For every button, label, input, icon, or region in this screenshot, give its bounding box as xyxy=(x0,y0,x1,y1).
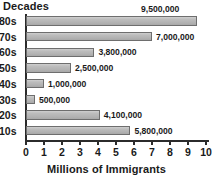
bar-row: 40s1,000,000 xyxy=(26,77,206,93)
x-tick-mark xyxy=(187,140,188,145)
bar-value-label: 500,000 xyxy=(39,94,70,106)
x-tick-label: 8 xyxy=(161,146,179,159)
bar-value-label: 2,500,000 xyxy=(75,62,113,74)
chart-title: Decades xyxy=(3,0,49,13)
bar-value-label: 7,000,000 xyxy=(156,31,194,43)
bar xyxy=(26,95,35,104)
bar xyxy=(26,110,100,119)
x-tick-label: 6 xyxy=(125,146,143,159)
bar-value-label: 5,800,000 xyxy=(134,125,172,137)
x-tick-mark xyxy=(79,140,80,145)
bar-row: 50s2,500,000 xyxy=(26,61,206,77)
x-tick-mark xyxy=(151,140,152,145)
immigration-bar-chart: Decades 80s9,500,00070s7,000,00060s3,800… xyxy=(0,0,213,182)
x-tick-label: 1 xyxy=(35,146,53,159)
x-axis-line xyxy=(25,140,209,142)
x-tick-label: 2 xyxy=(53,146,71,159)
category-label: 20s xyxy=(0,109,23,122)
x-tick-mark xyxy=(43,140,44,145)
x-axis-title: Millions of Immigrants xyxy=(0,163,213,175)
x-tick-label: 9 xyxy=(179,146,197,159)
x-tick-label: 5 xyxy=(107,146,125,159)
category-label: 30s xyxy=(0,94,23,107)
bar-row: 60s3,800,000 xyxy=(26,45,206,61)
category-label: 50s xyxy=(0,62,23,75)
x-tick-mark xyxy=(25,140,26,145)
x-tick-label: 3 xyxy=(71,146,89,159)
bar-value-label: 1,000,000 xyxy=(48,78,86,90)
x-tick-mark xyxy=(115,140,116,145)
category-label: 70s xyxy=(0,31,23,44)
bar-row: 80s9,500,000 xyxy=(26,14,206,30)
x-tick-mark xyxy=(61,140,62,145)
bar-row: 10s5,800,000 xyxy=(26,124,206,140)
x-tick-label: 7 xyxy=(143,146,161,159)
category-label: 40s xyxy=(0,78,23,91)
bar xyxy=(26,79,44,88)
x-tick-mark xyxy=(205,140,206,145)
bar xyxy=(26,126,130,135)
bar-value-label: 4,100,000 xyxy=(104,109,142,121)
bar-row: 70s7,000,000 xyxy=(26,30,206,46)
x-tick-mark xyxy=(97,140,98,145)
bar-value-label: 3,800,000 xyxy=(98,46,136,58)
bar-row: 30s500,000 xyxy=(26,93,206,109)
bar xyxy=(26,16,197,25)
bar-row: 20s4,100,000 xyxy=(26,108,206,124)
x-tick-label: 0 xyxy=(17,146,35,159)
plot-area: 80s9,500,00070s7,000,00060s3,800,00050s2… xyxy=(26,14,206,140)
x-tick-mark xyxy=(169,140,170,145)
category-label: 10s xyxy=(0,125,23,138)
bar xyxy=(26,32,152,41)
bar xyxy=(26,48,94,57)
category-label: 60s xyxy=(0,46,23,59)
x-tick-mark xyxy=(133,140,134,145)
bar-value-label: 9,500,000 xyxy=(141,3,179,15)
bar xyxy=(26,63,71,72)
x-tick-label: 10 xyxy=(197,146,213,159)
category-label: 80s xyxy=(0,15,23,28)
x-tick-label: 4 xyxy=(89,146,107,159)
